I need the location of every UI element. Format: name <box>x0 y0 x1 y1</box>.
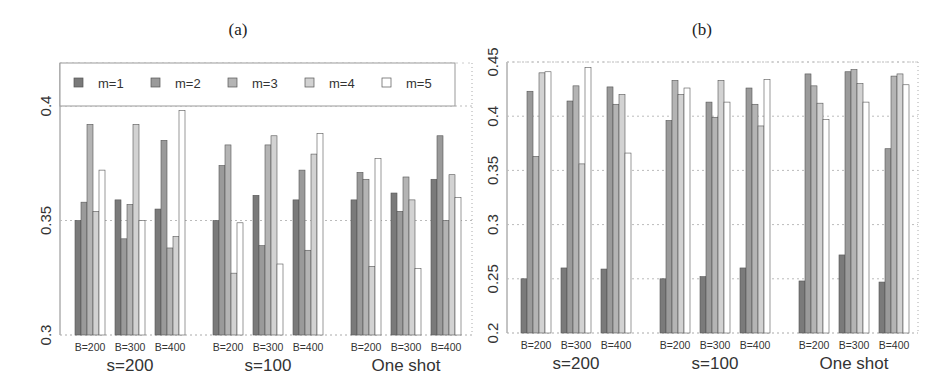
bar-m2 <box>259 246 265 335</box>
bar-m1 <box>115 200 121 335</box>
bar-m5 <box>277 264 283 335</box>
legend-label: m=1 <box>98 76 124 91</box>
bar-m4 <box>231 273 237 335</box>
bar-m3 <box>712 117 718 333</box>
bar-m5 <box>455 198 461 335</box>
bar-m2 <box>161 140 167 335</box>
x-group-label: One shot <box>820 354 889 373</box>
bar-m4 <box>579 164 585 333</box>
bar-m4 <box>678 95 684 333</box>
bar-m1 <box>351 200 357 335</box>
bar-m2 <box>357 172 363 335</box>
legend-label: m=2 <box>175 76 201 91</box>
bar-m4 <box>718 80 724 333</box>
y-tick-label: 0.4 <box>484 106 501 127</box>
bar-m2 <box>397 211 403 335</box>
bar-m4 <box>369 266 375 335</box>
bar-m1 <box>253 195 259 335</box>
bar-m1 <box>155 209 161 335</box>
bar-m3 <box>811 86 817 333</box>
chart-a: 0.30.350.4B=200B=300B=400s=200B=200B=300… <box>0 0 476 392</box>
bar-m2 <box>567 101 573 333</box>
x-subcategory-label: B=200 <box>213 341 244 353</box>
panel-a: (a) 0.30.350.4B=200B=300B=400s=200B=200B… <box>0 0 476 392</box>
bar-m3 <box>533 156 539 333</box>
x-group-label: s=200 <box>553 354 600 373</box>
y-tick-label: 0.25 <box>484 264 501 293</box>
bar-m2 <box>607 87 613 333</box>
legend-swatch-m5 <box>382 78 391 87</box>
legend-label: m=4 <box>329 76 355 91</box>
bar-m3 <box>127 204 133 335</box>
legend-swatch-m1 <box>74 78 83 87</box>
bar-m4 <box>311 154 317 335</box>
panel-b: (b) 0.20.250.30.350.40.45B=200B=300B=400… <box>476 0 952 392</box>
bar-m1 <box>601 269 607 333</box>
bar-m1 <box>213 221 219 336</box>
bar-m5 <box>99 170 105 335</box>
legend-swatch-m3 <box>228 78 237 87</box>
x-group-label: s=100 <box>692 354 739 373</box>
bar-m4 <box>539 73 545 333</box>
bar-m2 <box>121 239 127 335</box>
bar-m2 <box>746 88 752 333</box>
bar-m1 <box>799 281 805 333</box>
bar-m3 <box>167 248 173 335</box>
bar-m1 <box>839 255 845 333</box>
bar-m3 <box>672 80 678 333</box>
bar-m1 <box>660 279 666 333</box>
bar-m1 <box>391 193 397 335</box>
x-subcategory-label: B=400 <box>879 339 910 351</box>
bar-m5 <box>764 79 770 333</box>
bar-m4 <box>173 237 179 335</box>
x-subcategory-label: B=200 <box>351 341 382 353</box>
bar-m3 <box>613 104 619 333</box>
bar-m1 <box>431 179 437 335</box>
bar-m2 <box>299 170 305 335</box>
x-subcategory-label: B=400 <box>293 341 324 353</box>
bar-m5 <box>415 269 421 335</box>
y-tick-label: 0.35 <box>484 156 501 185</box>
bar-m5 <box>903 85 909 333</box>
bar-m3 <box>87 124 93 335</box>
bar-m2 <box>885 149 891 333</box>
x-subcategory-label: B=400 <box>601 339 632 351</box>
bar-m1 <box>700 277 706 333</box>
bar-m1 <box>75 221 81 336</box>
bar-m4 <box>619 95 625 333</box>
bar-m4 <box>817 103 823 333</box>
x-subcategory-label: B=300 <box>700 339 731 351</box>
x-subcategory-label: B=300 <box>561 339 592 351</box>
x-subcategory-label: B=300 <box>839 339 870 351</box>
bar-m4 <box>857 84 863 333</box>
x-group-label: s=200 <box>107 356 154 375</box>
bar-m5 <box>139 221 145 336</box>
bar-m5 <box>179 111 185 335</box>
bar-m5 <box>585 67 591 333</box>
x-subcategory-label: B=300 <box>391 341 422 353</box>
legend-label: m=3 <box>252 76 278 91</box>
bar-m4 <box>449 175 455 335</box>
bar-m2 <box>706 102 712 333</box>
chart-b: 0.20.250.30.350.40.45B=200B=300B=400s=20… <box>476 0 952 392</box>
bar-m3 <box>403 177 409 335</box>
x-subcategory-label: B=200 <box>521 339 552 351</box>
x-subcategory-label: B=300 <box>253 341 284 353</box>
x-subcategory-label: B=400 <box>155 341 186 353</box>
y-tick-label: 0.35 <box>37 206 54 235</box>
bar-m2 <box>219 166 225 335</box>
y-tick-label: 0.3 <box>484 214 501 235</box>
y-tick-label: 0.45 <box>484 47 501 76</box>
bar-m3 <box>443 221 449 336</box>
y-tick-label: 0.3 <box>37 325 54 346</box>
x-subcategory-label: B=200 <box>660 339 691 351</box>
x-group-label: One shot <box>372 356 441 375</box>
bar-m3 <box>225 145 231 335</box>
bar-m2 <box>845 72 851 333</box>
bar-m3 <box>851 70 857 333</box>
bar-m1 <box>521 279 527 333</box>
x-subcategory-label: B=400 <box>740 339 771 351</box>
bar-m5 <box>375 159 381 335</box>
legend-swatch-m4 <box>305 78 314 87</box>
bar-m3 <box>752 104 758 333</box>
